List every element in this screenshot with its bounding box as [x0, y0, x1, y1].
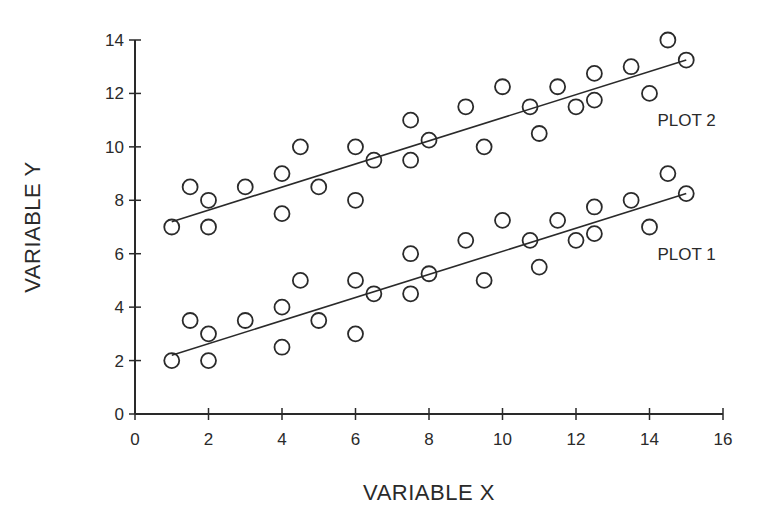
data-point-circle-icon: [660, 166, 675, 181]
data-point-circle-icon: [183, 179, 198, 194]
fit-line: [172, 194, 687, 356]
data-point-circle-icon: [183, 313, 198, 328]
data-point-circle-icon: [238, 313, 253, 328]
data-point-circle-icon: [642, 86, 657, 101]
data-point-circle-icon: [495, 79, 510, 94]
data-point-circle-icon: [458, 99, 473, 114]
x-tick-label: 4: [277, 430, 286, 449]
data-point-circle-icon: [624, 193, 639, 208]
data-point-circle-icon: [660, 33, 675, 48]
data-point-circle-icon: [275, 300, 290, 315]
x-tick-label: 14: [640, 430, 659, 449]
data-point-circle-icon: [550, 213, 565, 228]
y-tick-label: 2: [115, 352, 124, 371]
data-point-circle-icon: [403, 153, 418, 168]
x-tick-label: 10: [493, 430, 512, 449]
data-point-circle-icon: [532, 260, 547, 275]
x-tick-label: 12: [567, 430, 586, 449]
data-point-circle-icon: [348, 273, 363, 288]
data-point-circle-icon: [275, 166, 290, 181]
data-point-circle-icon: [348, 326, 363, 341]
data-point-circle-icon: [201, 220, 216, 235]
axes: 024681012141602468101214: [105, 31, 732, 449]
y-tick-label: 10: [105, 138, 124, 157]
x-tick-label: 6: [351, 430, 360, 449]
data-point-circle-icon: [458, 233, 473, 248]
data-point-circle-icon: [532, 126, 547, 141]
x-tick-label: 8: [424, 430, 433, 449]
data-point-circle-icon: [495, 213, 510, 228]
data-point-circle-icon: [311, 179, 326, 194]
series-label: PLOT 2: [658, 111, 716, 130]
data-point-circle-icon: [587, 93, 602, 108]
data-point-circle-icon: [550, 79, 565, 94]
x-axis-title: VARIABLE X: [363, 480, 495, 505]
data-point-circle-icon: [201, 353, 216, 368]
data-point-circle-icon: [587, 226, 602, 241]
y-tick-label: 14: [105, 31, 124, 50]
fit-line: [172, 60, 687, 222]
y-tick-label: 8: [115, 191, 124, 210]
data-point-circle-icon: [477, 273, 492, 288]
x-tick-label: 16: [714, 430, 733, 449]
series-2: PLOT 2: [164, 33, 716, 235]
data-point-circle-icon: [477, 139, 492, 154]
data-point-circle-icon: [275, 340, 290, 355]
x-tick-label: 0: [130, 430, 139, 449]
y-tick-label: 12: [105, 84, 124, 103]
data-point-circle-icon: [164, 353, 179, 368]
y-axis-title: VARIABLE Y: [20, 161, 45, 292]
data-point-circle-icon: [201, 326, 216, 341]
series-label: PLOT 1: [658, 245, 716, 264]
data-point-circle-icon: [403, 113, 418, 128]
data-point-circle-icon: [403, 286, 418, 301]
data-point-circle-icon: [293, 139, 308, 154]
data-point-circle-icon: [348, 193, 363, 208]
y-tick-label: 0: [115, 405, 124, 424]
data-point-circle-icon: [275, 206, 290, 221]
data-point-circle-icon: [642, 220, 657, 235]
data-point-circle-icon: [624, 59, 639, 74]
data-point-circle-icon: [164, 220, 179, 235]
data-point-circle-icon: [569, 99, 584, 114]
data-point-circle-icon: [587, 199, 602, 214]
y-tick-label: 6: [115, 245, 124, 264]
data-point-circle-icon: [311, 313, 326, 328]
data-point-circle-icon: [569, 233, 584, 248]
scatter-chart: 024681012141602468101214 PLOT 1PLOT 2 VA…: [0, 0, 766, 521]
data-point-circle-icon: [587, 66, 602, 81]
x-tick-label: 2: [204, 430, 213, 449]
data-point-circle-icon: [293, 273, 308, 288]
data-point-circle-icon: [238, 179, 253, 194]
data-point-circle-icon: [403, 246, 418, 261]
y-tick-label: 4: [115, 298, 124, 317]
data-point-circle-icon: [348, 139, 363, 154]
series-layer: PLOT 1PLOT 2: [164, 33, 716, 369]
series-1: PLOT 1: [164, 166, 716, 368]
data-point-circle-icon: [201, 193, 216, 208]
